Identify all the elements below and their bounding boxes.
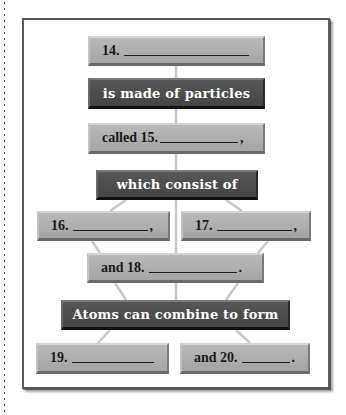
blank-box-16[interactable]: 16. ,	[37, 211, 170, 241]
blank-box-19[interactable]: 19.	[36, 343, 169, 374]
blank-17-punct: ,	[294, 218, 298, 234]
blank-20-punct: .	[292, 350, 296, 366]
blank-18-line[interactable]	[149, 263, 237, 273]
blank-17-label: 17.	[195, 218, 213, 234]
blank-14-line[interactable]	[124, 46, 249, 56]
blank-16-line[interactable]	[73, 221, 148, 231]
link-label: which consist of	[116, 177, 237, 192]
blank-16-punct: ,	[150, 218, 154, 234]
link-which-consist-of: which consist of	[96, 170, 258, 200]
blank-18-punct: .	[239, 260, 243, 276]
blank-box-20[interactable]: and 20. .	[180, 343, 310, 374]
blank-20-label: and 20.	[194, 350, 238, 366]
link-made-of-particles: is made of particles	[88, 78, 265, 109]
blank-15-punct: ,	[240, 130, 244, 146]
blank-15-line[interactable]	[160, 133, 238, 143]
blank-20-line[interactable]	[242, 353, 290, 363]
link-label: is made of particles	[103, 86, 250, 101]
blank-17-line[interactable]	[217, 221, 292, 231]
blank-14-label: 14.	[102, 43, 120, 59]
blank-box-17[interactable]: 17. ,	[181, 211, 311, 241]
blank-box-18[interactable]: and 18. .	[87, 253, 264, 283]
blank-18-label: and 18.	[101, 260, 145, 276]
blank-19-line[interactable]	[72, 353, 154, 363]
blank-box-14[interactable]: 14.	[88, 36, 265, 66]
link-atoms-combine: Atoms can combine to form	[61, 300, 290, 330]
blank-19-label: 19.	[50, 350, 68, 366]
blank-15-label: called 15.	[102, 130, 158, 146]
blank-16-label: 16.	[51, 218, 69, 234]
link-label: Atoms can combine to form	[72, 307, 278, 322]
blank-box-15[interactable]: called 15. ,	[88, 123, 265, 154]
